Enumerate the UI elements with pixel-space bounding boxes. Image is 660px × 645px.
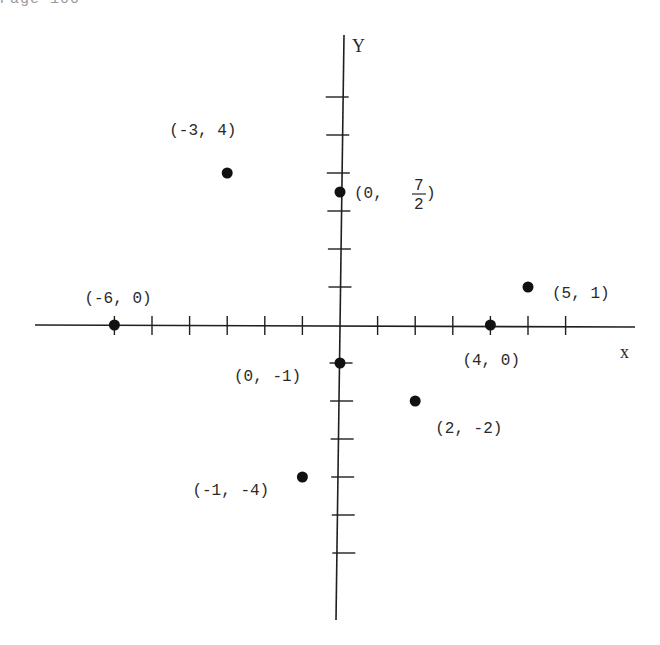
y-axis-label: Y — [352, 36, 365, 56]
point-label: (2, -2) — [435, 420, 502, 438]
data-point — [523, 282, 534, 293]
point-labels: (-3, 4)(0, 72)(-6, 0)(5, 1)(4, 0)(0, -1)… — [84, 122, 609, 500]
svg-text:2: 2 — [414, 196, 424, 214]
point-label-fraction: (0, 72) — [354, 177, 436, 214]
svg-text:): ) — [426, 185, 436, 203]
x-axis — [35, 325, 635, 327]
data-point — [485, 320, 496, 331]
point-label: (4, 0) — [462, 352, 520, 370]
data-point — [335, 187, 346, 198]
svg-text:(0,: (0, — [354, 185, 383, 203]
data-point — [222, 168, 233, 179]
data-point — [410, 396, 421, 407]
data-point — [335, 358, 346, 369]
data-point — [297, 472, 308, 483]
point-label: (-3, 4) — [169, 122, 236, 140]
x-axis-label: x — [620, 342, 629, 362]
data-point — [109, 320, 120, 331]
point-label: (-6, 0) — [84, 290, 151, 308]
y-axis — [336, 35, 344, 620]
point-label: (-1, -4) — [192, 482, 269, 500]
point-label: (5, 1) — [552, 285, 610, 303]
point-label: (0, -1) — [234, 368, 301, 386]
coordinate-plane: xY (-3, 4)(0, 72)(-6, 0)(5, 1)(4, 0)(0, … — [0, 0, 660, 645]
axes: xY — [35, 35, 635, 620]
svg-text:7: 7 — [414, 177, 424, 195]
